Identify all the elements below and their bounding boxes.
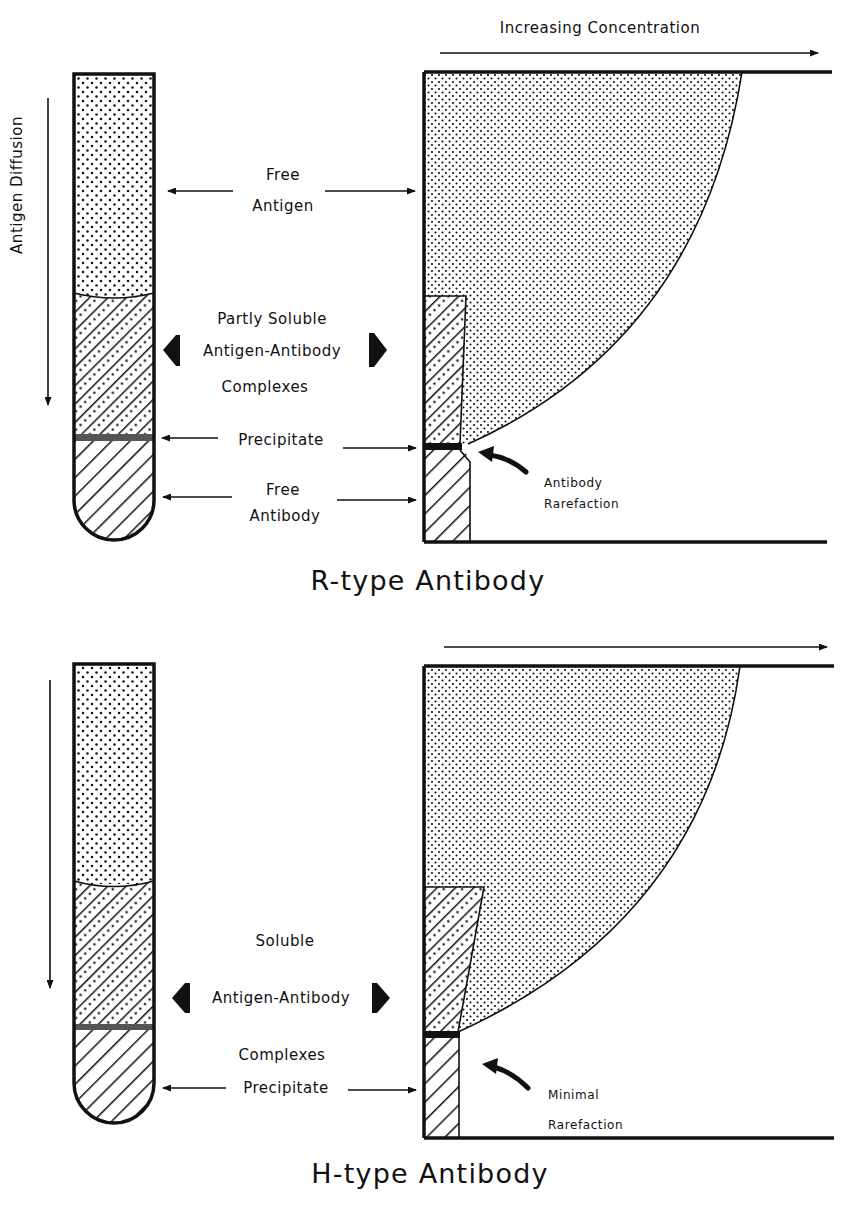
concentration-axis-label: Increasing Concentration xyxy=(500,19,700,37)
svg-text:Partly Soluble: Partly Soluble xyxy=(217,310,327,328)
r-rarefaction-annotation: Antibody Rarefaction xyxy=(478,446,619,511)
svg-text:Minimal: Minimal xyxy=(548,1088,599,1102)
h-tube-complex-zone xyxy=(74,881,154,1030)
svg-text:Complexes: Complexes xyxy=(239,1046,326,1064)
svg-text:Antigen: Antigen xyxy=(252,197,314,215)
h-tube-free-antibody-zone xyxy=(74,1030,154,1123)
svg-text:Soluble: Soluble xyxy=(256,932,315,950)
svg-text:Antibody: Antibody xyxy=(250,507,321,525)
r-plot-free-antibody-region xyxy=(424,444,470,542)
h-precipitate-label: Precipitate xyxy=(163,1079,416,1097)
r-type-title: R-type Antibody xyxy=(311,565,546,596)
h-type-panel: Soluble Antigen-Antibody Complexes Preci… xyxy=(74,664,834,1189)
curved-arrow-icon xyxy=(490,455,526,472)
h-diffusion-plot xyxy=(424,666,834,1138)
r-plot-complex-region xyxy=(424,296,466,444)
h-test-tube xyxy=(74,664,154,1123)
h-rarefaction-annotation: Minimal Rarefaction xyxy=(482,1058,623,1132)
h-plot-precipitate-line xyxy=(424,1031,460,1038)
r-plot-precipitate-line xyxy=(424,443,462,450)
r-plot-free-antigen-region xyxy=(424,72,742,444)
r-free-antigen-label: Free Antigen xyxy=(168,166,415,215)
r-tube-complex-zone xyxy=(74,293,154,440)
left-block-arrow-icon xyxy=(163,335,180,366)
left-block-arrow-icon xyxy=(172,983,190,1013)
svg-text:Antibody: Antibody xyxy=(544,476,602,490)
h-tube-free-antigen-zone xyxy=(74,664,154,884)
svg-text:Precipitate: Precipitate xyxy=(243,1079,329,1097)
r-tube-precipitate-band xyxy=(74,434,154,441)
right-block-arrow-icon xyxy=(369,333,387,367)
svg-text:Complexes: Complexes xyxy=(222,378,309,396)
h-plot-free-antibody-region xyxy=(424,1032,459,1138)
antibody-diffusion-diagram: Increasing Concentration Antigen Diffusi… xyxy=(0,0,857,1208)
h-type-title: H-type Antibody xyxy=(311,1158,548,1189)
r-tube-free-antigen-zone xyxy=(74,74,154,296)
r-complex-label: Partly Soluble Antigen-Antibody Complexe… xyxy=(163,310,387,396)
r-tube-free-antibody-zone xyxy=(74,441,154,540)
h-complex-label: Soluble Antigen-Antibody Complexes xyxy=(172,932,390,1064)
svg-text:Free: Free xyxy=(266,481,300,499)
svg-text:Antigen-Antibody: Antigen-Antibody xyxy=(212,989,350,1007)
h-plot-free-antigen-region xyxy=(424,666,740,1032)
h-tube-precipitate-band xyxy=(74,1024,154,1030)
r-test-tube xyxy=(74,74,154,540)
svg-text:Precipitate: Precipitate xyxy=(238,431,324,449)
r-type-panel: Free Antigen Partly Soluble Antigen-Anti… xyxy=(74,72,832,596)
concentration-axis: Increasing Concentration xyxy=(440,19,818,53)
curved-arrow-icon xyxy=(494,1067,528,1088)
right-block-arrow-icon xyxy=(372,983,390,1013)
svg-text:Antigen-Antibody: Antigen-Antibody xyxy=(203,342,341,360)
diffusion-axis-label: Antigen Diffusion xyxy=(8,116,26,254)
r-free-antibody-label: Free Antibody xyxy=(163,481,416,525)
svg-text:Rarefaction: Rarefaction xyxy=(544,497,619,511)
r-precipitate-label: Precipitate xyxy=(162,431,416,449)
diffusion-axis: Antigen Diffusion xyxy=(8,98,48,405)
svg-text:Free: Free xyxy=(266,166,300,184)
r-diffusion-plot xyxy=(424,72,832,542)
svg-text:Rarefaction: Rarefaction xyxy=(548,1118,623,1132)
